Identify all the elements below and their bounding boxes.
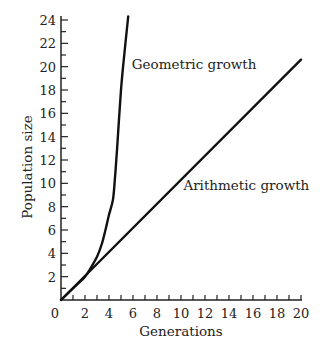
y-tick-label: 22 — [39, 36, 56, 51]
y-axis-title: Population size — [19, 115, 35, 219]
y-tick-label: 2 — [48, 270, 56, 285]
y-tick-label: 12 — [39, 153, 56, 168]
x-tick-label: 4 — [105, 306, 113, 321]
geometric-growth-line — [61, 17, 128, 301]
y-tick-label: 6 — [48, 223, 56, 238]
growth-chart: 02468101214161820 24681012141618202224 G… — [0, 0, 322, 352]
x-ticks: 02468101214161820 — [51, 295, 309, 321]
y-tick-label: 16 — [39, 106, 56, 121]
x-tick-label: 10 — [173, 306, 190, 321]
x-tick-label: 6 — [129, 306, 137, 321]
x-tick-label: 12 — [197, 306, 214, 321]
x-tick-label: 16 — [245, 306, 262, 321]
y-tick-label: 4 — [48, 246, 56, 261]
x-tick-label: 18 — [269, 306, 286, 321]
x-tick-label: 0 — [51, 306, 59, 321]
x-tick-label: 2 — [81, 306, 89, 321]
x-tick-label: 20 — [293, 306, 310, 321]
y-tick-label: 8 — [48, 200, 56, 215]
y-ticks: 24681012141618202224 — [39, 13, 68, 288]
y-tick-label: 18 — [39, 83, 56, 98]
series-annotation: Geometric growth — [132, 56, 257, 72]
y-tick-label: 14 — [39, 130, 56, 145]
x-tick-label: 8 — [153, 306, 161, 321]
series-annotation: Arithmetic growth — [182, 177, 309, 193]
x-axis-title: Generations — [139, 323, 223, 339]
x-tick-label: 14 — [221, 306, 238, 321]
y-tick-label: 20 — [39, 60, 56, 75]
y-tick-label: 10 — [39, 176, 56, 191]
y-tick-label: 24 — [39, 13, 56, 28]
